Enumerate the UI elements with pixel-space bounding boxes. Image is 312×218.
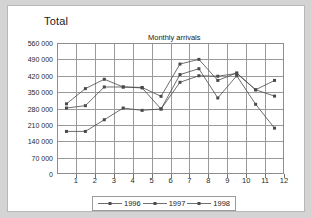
data-point-marker	[178, 63, 181, 66]
y-axis-tick-label: 210 000	[28, 121, 53, 128]
data-point-marker	[84, 130, 87, 133]
y-axis-tick-label: 490 000	[28, 56, 53, 63]
data-point-marker	[216, 75, 219, 78]
legend-label: 1998	[213, 199, 231, 208]
data-point-marker	[216, 79, 219, 82]
legend-marker-icon	[186, 199, 212, 208]
series-line	[66, 59, 274, 103]
data-point-marker	[235, 74, 238, 77]
x-axis-tick-label: 12	[280, 176, 288, 185]
data-point-marker	[84, 87, 87, 90]
data-point-marker	[254, 88, 257, 91]
x-axis-tick-label: 9	[225, 176, 229, 185]
plot-area	[57, 43, 284, 174]
x-axis-tick-label: 6	[168, 176, 172, 185]
data-point-marker	[197, 67, 200, 70]
data-point-marker	[178, 81, 181, 84]
x-axis-tick-label: 10	[242, 176, 250, 185]
series-1996	[65, 58, 276, 105]
y-axis-tick-label: 560 000	[28, 40, 53, 47]
data-point-marker	[141, 86, 144, 89]
data-point-marker	[141, 109, 144, 112]
x-axis-tick-label: 7	[187, 176, 191, 185]
legend-marker-icon	[97, 199, 123, 208]
series-1998	[65, 67, 276, 133]
y-axis-labels: 070 000140 000210 000280 000350 000420 0…	[8, 43, 53, 174]
x-axis-tick-label: 2	[93, 176, 97, 185]
data-point-marker	[197, 74, 200, 77]
legend-marker-icon	[142, 199, 168, 208]
y-axis-tick-label: 140 000	[28, 138, 53, 145]
legend-entry-1998[interactable]: 1998	[186, 199, 231, 208]
data-point-marker	[273, 127, 276, 130]
data-point-marker	[273, 79, 276, 82]
x-axis-tick-label: 3	[112, 176, 116, 185]
legend-entry-1996[interactable]: 1996	[97, 199, 142, 208]
data-point-marker	[65, 130, 68, 133]
screenshot-root: Total Monthly arrivals 070 000140 000210…	[0, 0, 312, 218]
chart-title: Monthly arrivals	[148, 33, 201, 42]
y-axis-tick-label: 420 000	[28, 72, 53, 79]
data-point-marker	[122, 85, 125, 88]
data-point-marker	[84, 104, 87, 107]
data-point-marker	[216, 96, 219, 99]
legend-entry-1997[interactable]: 1997	[142, 199, 187, 208]
y-axis-tick-label: 350 000	[28, 89, 53, 96]
legend-label: 1997	[169, 199, 187, 208]
x-axis-tick-label: 4	[131, 176, 135, 185]
x-axis-tick-label: 1	[74, 176, 78, 185]
y-axis-tick-label: 280 000	[28, 105, 53, 112]
data-point-marker	[103, 78, 106, 81]
data-point-marker	[160, 107, 163, 110]
x-axis-tick-label: 11	[261, 176, 269, 185]
x-axis-tick-label: 8	[206, 176, 210, 185]
data-point-marker	[254, 103, 257, 106]
y-axis-tick-label: 70 000	[32, 154, 53, 161]
x-axis-labels: 123456789101112	[57, 176, 284, 188]
data-point-marker	[65, 107, 68, 110]
y-axis-tick-label: 0	[49, 171, 53, 178]
x-axis-tick-label: 5	[149, 176, 153, 185]
data-point-marker	[103, 85, 106, 88]
data-point-marker	[122, 107, 125, 110]
data-point-marker	[103, 118, 106, 121]
data-point-marker	[65, 102, 68, 105]
legend-label: 1996	[124, 199, 142, 208]
data-point-marker	[160, 95, 163, 98]
data-point-marker	[273, 95, 276, 98]
data-point-marker	[178, 73, 181, 76]
series-line	[66, 69, 274, 132]
chart-legend: 199619971998	[92, 196, 236, 211]
chart-panel: Total Monthly arrivals 070 000140 000210…	[7, 5, 305, 212]
series-layer	[57, 43, 284, 174]
panel-corner-label: Total	[44, 15, 68, 27]
data-point-marker	[197, 58, 200, 61]
